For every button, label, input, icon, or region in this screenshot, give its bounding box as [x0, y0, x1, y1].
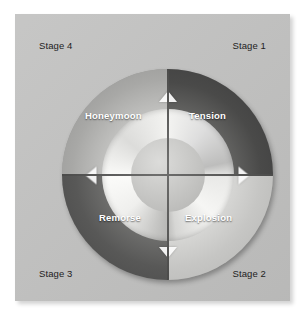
stage-label-2: Stage 2 [233, 268, 266, 279]
stage-label-4: Stage 4 [39, 40, 72, 51]
phase-label-tension: Tension [189, 110, 226, 121]
diagram-card: Stage 4 Stage 1 Stage 3 Stage 2 Honeymoo… [15, 14, 290, 301]
cycle-wheel [62, 69, 273, 280]
stage-label-1: Stage 1 [233, 40, 266, 51]
phase-label-remorse: Remorse [99, 212, 141, 223]
phase-label-honeymoon: Honeymoon [85, 110, 142, 121]
phase-label-explosion: Explosion [185, 212, 232, 223]
stage-label-3: Stage 3 [39, 268, 72, 279]
divider-horizontal [62, 174, 273, 176]
